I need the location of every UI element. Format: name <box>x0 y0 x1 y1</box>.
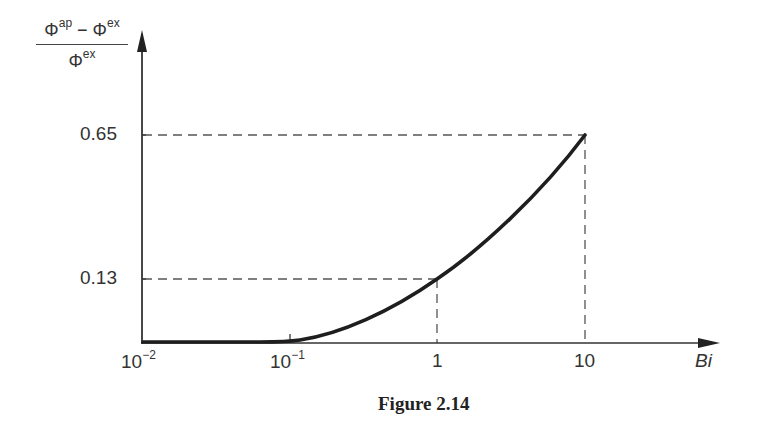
fraction-bar <box>36 44 128 45</box>
figure-caption: Figure 2.14 <box>378 393 469 415</box>
data-curve <box>143 135 585 342</box>
ytick-label: 0.65 <box>80 123 117 145</box>
phi-symbol: Φ <box>44 20 58 40</box>
xtick-exp: −1 <box>291 348 305 362</box>
x-axis-label: Bi <box>695 350 712 372</box>
xtick-label: 10−2 <box>121 350 156 373</box>
sup-ex: ex <box>83 47 96 61</box>
y-axis-arrow-icon <box>137 30 147 52</box>
phi-symbol: Φ <box>93 20 107 40</box>
xtick-base: 10 <box>574 350 595 371</box>
xtick-exp: −2 <box>142 348 156 362</box>
sup-ap: ap <box>59 16 72 30</box>
xtick-label: 1 <box>432 350 443 372</box>
xtick-base: 10 <box>121 351 142 372</box>
y-label-denominator: Φex <box>36 49 128 72</box>
x-axis-arrow-icon <box>698 338 720 348</box>
xtick-base: 10 <box>270 351 291 372</box>
sup-ex: ex <box>107 16 120 30</box>
xtick-label: 10 <box>574 350 595 372</box>
y-label-numerator: Φap − Φex <box>36 18 128 41</box>
minus-sign: − <box>72 20 93 40</box>
xtick-base: 1 <box>432 350 443 371</box>
y-axis-label: Φap − Φex Φex <box>36 18 128 72</box>
ytick-label: 0.13 <box>80 267 117 289</box>
xtick-label: 10−1 <box>270 350 305 373</box>
phi-symbol: Φ <box>68 51 82 71</box>
guide-lines <box>143 135 585 343</box>
